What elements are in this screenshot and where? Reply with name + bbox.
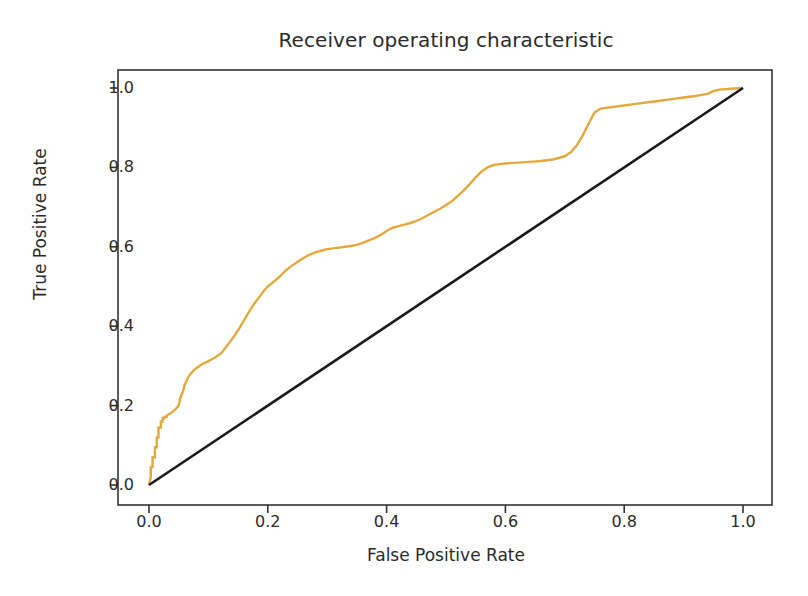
y-tick-label: 0.8 [74,157,134,176]
y-tick-label: 0.6 [74,237,134,256]
y-axis-ticks [110,88,118,485]
y-axis-label: True Positive Rate [30,124,50,324]
y-tick-label: 0.2 [74,396,134,415]
y-tick-label: 1.0 [74,78,134,97]
x-tick-label: 0.0 [119,512,179,531]
x-axis-label: False Positive Rate [149,545,743,565]
y-tick-label: 0.0 [74,475,134,494]
x-tick-label: 0.4 [357,512,417,531]
x-tick-label: 1.0 [713,512,773,531]
roc-chart-figure: Receiver operating characteristic 0.00.2… [0,0,808,596]
y-tick-label: 0.4 [74,316,134,335]
x-tick-label: 0.2 [238,512,298,531]
x-tick-label: 0.6 [475,512,535,531]
x-tick-label: 0.8 [594,512,654,531]
